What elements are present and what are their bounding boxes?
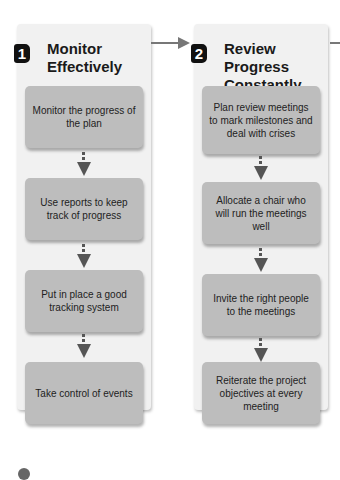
down-arrow-icon [194, 246, 328, 274]
stage-header-2: 2 Review Progress Constantly [194, 32, 328, 82]
stage-column-1: 1 Monitor Effectively Monitor the progre… [17, 24, 151, 410]
stage-title-line: Review Progress [224, 40, 328, 76]
step-box: Allocate a chair who will run the meetin… [202, 182, 320, 244]
right-arrow-icon [151, 42, 179, 44]
stage-header-1: 1 Monitor Effectively [17, 32, 151, 82]
down-arrow-icon [17, 312, 151, 340]
stage-title-line: Monitor [47, 40, 122, 58]
down-arrow-icon [17, 150, 151, 178]
step-box: Reiterate the project objectives at ever… [202, 362, 320, 424]
stage-title-line: Effectively [47, 58, 122, 76]
down-arrow-icon [17, 242, 151, 270]
step-box: Plan review meetings to mark milestones … [202, 86, 320, 154]
step-box: Use reports to keep track of progress [25, 178, 143, 240]
stage-title: Monitor Effectively [47, 40, 122, 76]
down-arrow-icon [194, 154, 328, 182]
stage-number-badge: 1 [14, 44, 30, 63]
stage-column-2: 2 Review Progress Constantly Plan review… [194, 24, 328, 410]
step-box: Monitor the progress of the plan [25, 86, 143, 148]
stage-number-badge: 2 [191, 44, 207, 63]
step-box: Take control of events [25, 362, 143, 424]
continuation-arrow-icon [330, 42, 340, 44]
down-arrow-icon [194, 316, 328, 344]
bullet-icon [18, 468, 30, 480]
arrow-head-icon [178, 37, 190, 49]
